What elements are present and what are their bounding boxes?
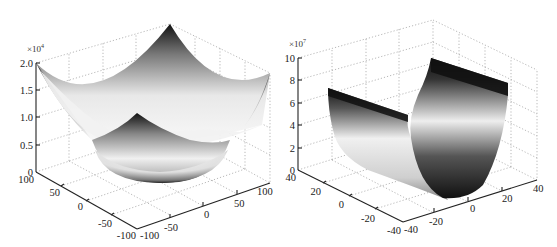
y-tick-label: 20 <box>311 186 322 197</box>
left-exponent-label: ×104 <box>27 43 44 54</box>
x-tick-label: 20 <box>502 193 513 204</box>
z-tick-label: 6 <box>290 98 295 109</box>
z-tick-label: 8 <box>290 75 295 86</box>
z-tick-label: 10 <box>285 53 296 64</box>
x-tick-label: -100 <box>140 230 159 241</box>
z-tick-label: 0.5 <box>20 140 33 151</box>
y-tick-label: -50 <box>98 218 112 229</box>
z-tick-label: 2.0 <box>20 58 33 69</box>
y-tick-label: -100 <box>117 230 136 241</box>
right-exponent-label: ×107 <box>289 38 306 49</box>
right-surface <box>328 58 508 200</box>
y-tick-label: 100 <box>18 174 34 185</box>
y-tick-label: -40 <box>387 225 401 236</box>
y-tick-label: 0 <box>339 199 344 210</box>
right-surface-plot: ×107 0 2 4 6 8 10 40 20 0 -20 -40 -40 -2… <box>278 0 557 247</box>
x-tick-label: 50 <box>234 198 245 209</box>
left-plot-canvas: ×104 0 0.5 1.0 1.5 2.0 100 50 0 -50 -100… <box>0 0 278 247</box>
y-tick-label: 50 <box>50 187 61 198</box>
z-tick-label: 2 <box>290 143 295 154</box>
x-tick-label: 0 <box>204 209 209 220</box>
x-tick-label: 100 <box>257 186 273 197</box>
right-plot-canvas: ×107 0 2 4 6 8 10 40 20 0 -20 -40 -40 -2… <box>278 0 557 247</box>
left-surface-plot: ×104 0 0.5 1.0 1.5 2.0 100 50 0 -50 -100… <box>0 0 278 247</box>
x-tick-label: -50 <box>164 222 178 233</box>
z-tick-label: 4 <box>290 120 296 131</box>
left-surface <box>36 24 270 183</box>
x-tick-label: 40 <box>533 183 544 194</box>
x-tick-label: 0 <box>470 203 475 214</box>
z-tick-label: 1.0 <box>20 112 33 123</box>
x-tick-label: -40 <box>404 224 418 235</box>
y-tick-label: -20 <box>361 213 375 224</box>
y-tick-label: 40 <box>286 172 297 183</box>
z-tick-label: 1.5 <box>20 85 33 96</box>
y-tick-label: 0 <box>78 201 83 212</box>
x-tick-label: -20 <box>429 216 443 227</box>
